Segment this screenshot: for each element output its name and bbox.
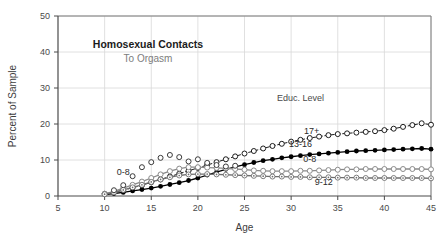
data-point-center — [412, 177, 414, 179]
data-point — [149, 160, 154, 165]
x-axis-tick-label: 40 — [379, 203, 389, 213]
data-point — [289, 169, 294, 174]
data-point-center — [290, 176, 292, 178]
data-point-center — [122, 189, 124, 191]
data-point-center — [206, 173, 208, 175]
data-point — [242, 151, 247, 156]
series-label-0-8: 0-8 — [117, 167, 130, 177]
series-label-17-: 17+ — [304, 126, 319, 136]
chart-subtitle: To Orgasm — [124, 53, 173, 64]
data-point — [195, 157, 200, 162]
data-point — [130, 174, 135, 179]
data-point — [429, 122, 434, 127]
x-axis-title: Age — [236, 222, 254, 233]
data-point — [261, 168, 266, 173]
data-point-center — [178, 175, 180, 177]
y-axis-tick-label: 20 — [40, 119, 50, 129]
data-point — [186, 165, 191, 170]
data-point — [345, 131, 350, 136]
data-point — [251, 168, 256, 173]
data-point — [158, 172, 163, 177]
data-point — [139, 165, 144, 170]
data-point — [354, 167, 359, 172]
series-label-0-8: 0-8 — [303, 154, 316, 164]
y-axis-title: Percent of Sample — [7, 64, 18, 147]
data-point-center — [188, 174, 190, 176]
data-point — [270, 169, 275, 174]
x-axis-tick-label: 30 — [286, 203, 296, 213]
educ-level-annotation: Educ. Level — [277, 93, 324, 103]
data-point — [363, 129, 368, 134]
x-axis-tick-label: 5 — [55, 203, 60, 213]
data-point — [410, 146, 415, 151]
chart-container: 0102030405051015202530354045AgePercent o… — [0, 0, 444, 246]
data-point — [158, 155, 163, 160]
data-point — [167, 169, 172, 174]
series-label-9-12: 9-12 — [315, 177, 333, 187]
data-point — [298, 168, 303, 173]
data-point — [345, 149, 350, 154]
data-point-center — [272, 176, 274, 178]
data-point — [205, 160, 210, 165]
data-point — [363, 148, 368, 153]
data-point-center — [132, 187, 134, 189]
data-point — [401, 167, 406, 172]
data-point — [177, 155, 182, 160]
data-point — [335, 167, 340, 172]
data-point — [419, 146, 424, 151]
data-point — [149, 186, 154, 191]
data-point — [326, 151, 331, 156]
data-point — [335, 150, 340, 155]
data-point-center — [356, 177, 358, 179]
data-point — [410, 123, 415, 128]
x-axis-tick-label: 10 — [100, 203, 110, 213]
data-point-center — [262, 175, 264, 177]
data-point-center — [216, 174, 218, 176]
data-point — [382, 128, 387, 133]
data-point-center — [234, 174, 236, 176]
data-point — [177, 166, 182, 171]
data-point — [363, 167, 368, 172]
data-point-center — [374, 177, 376, 179]
x-axis-tick-label: 35 — [333, 203, 343, 213]
data-point — [307, 168, 312, 173]
data-point-center — [160, 179, 162, 181]
data-point — [401, 147, 406, 152]
data-point-center — [421, 177, 423, 179]
data-point — [195, 165, 200, 170]
data-point — [279, 169, 284, 174]
data-point-center — [402, 177, 404, 179]
y-axis-tick-label: 40 — [40, 47, 50, 57]
y-axis-tick-label: 50 — [40, 11, 50, 21]
data-point — [223, 157, 228, 162]
data-point-center — [393, 177, 395, 179]
data-point-center — [337, 177, 339, 179]
data-point — [251, 160, 256, 165]
homosexual-contacts-line-chart: 0102030405051015202530354045AgePercent o… — [0, 0, 444, 246]
data-point-center — [150, 181, 152, 183]
data-point-center — [300, 176, 302, 178]
x-axis-tick-label: 20 — [193, 203, 203, 213]
data-point-center — [253, 175, 255, 177]
data-point — [410, 167, 415, 172]
data-point-center — [104, 193, 106, 195]
data-point — [391, 167, 396, 172]
data-point — [111, 188, 116, 193]
data-point — [419, 121, 424, 126]
data-point — [270, 143, 275, 148]
data-point — [382, 148, 387, 153]
data-point-center — [141, 184, 143, 186]
chart-title: Homosexual Contacts — [93, 38, 203, 50]
data-point — [401, 124, 406, 129]
data-point-center — [430, 178, 432, 180]
data-point — [261, 158, 266, 163]
data-point-center — [346, 177, 348, 179]
y-axis-tick-label: 30 — [40, 83, 50, 93]
data-point — [186, 159, 191, 164]
y-axis-tick-label: 0 — [45, 191, 50, 201]
data-point — [168, 182, 173, 187]
data-point — [223, 164, 228, 169]
data-point — [373, 129, 378, 134]
data-point — [214, 163, 219, 168]
data-point-center — [197, 173, 199, 175]
